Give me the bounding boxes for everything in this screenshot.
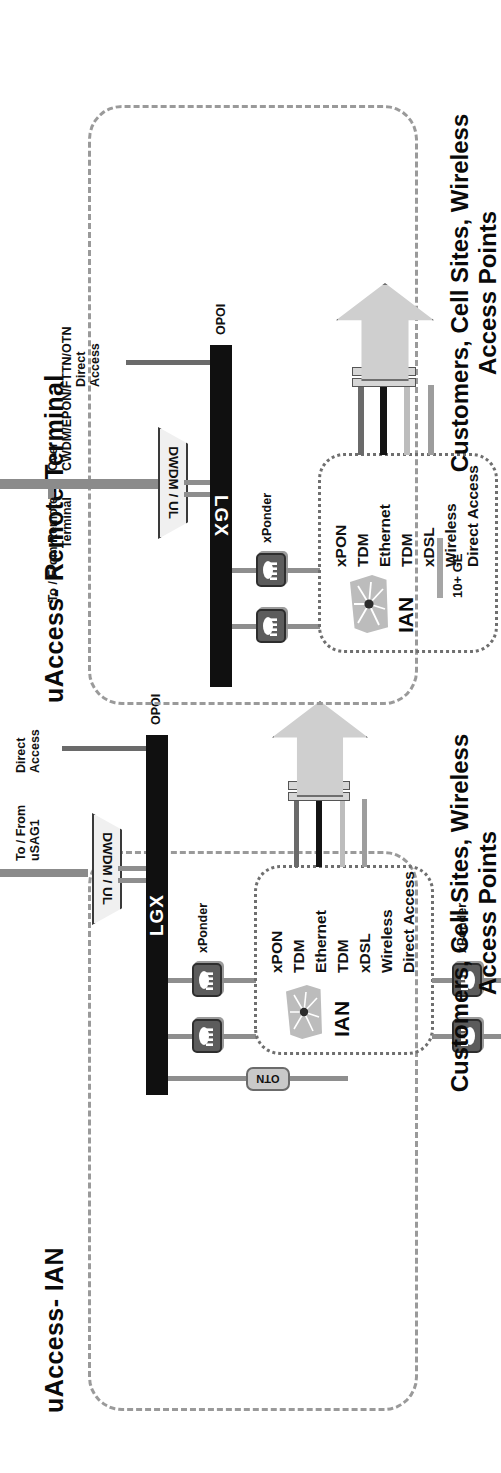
xponder-text-rt: xPonder (260, 493, 274, 543)
rt-trunk-label-line4: CWDM/EPON/FTTN/OTN (60, 327, 74, 471)
lgx-label-ian-top: LGX (146, 894, 168, 936)
xponder-fan-icon-1-ian (194, 1021, 220, 1051)
dwdm-lgx-wire-a-ian (118, 878, 146, 883)
ian-word-rt: IAN (394, 597, 418, 633)
service-drop-wire-2-rt (380, 385, 387, 455)
service-item: TDM (354, 533, 372, 567)
service-drop-wire-4-rt (428, 385, 434, 455)
xponder-text-ian-top: xPonder (196, 903, 210, 953)
usag1-uplink-line1: To / From (14, 805, 28, 861)
lgx-bar-rt: LGX (210, 345, 232, 687)
xponder-device-1-rt (256, 609, 286, 643)
customers-title-line1-rt: Customers, Cell Sites, Wireless (446, 114, 474, 473)
ian-word-ian: IAN (330, 1001, 354, 1037)
rt-trunk-label-right: Over CWDM/EPON/FTTN/OTN (46, 327, 74, 471)
rt-trunk-line (0, 479, 160, 489)
rt-trunk-label-line1: To / From Remote (46, 497, 60, 609)
otn-badge-ian: OTN (246, 1067, 290, 1091)
ian-node-icon-rt (350, 575, 388, 633)
customers-title-ian: Customers, Cell Sites, Wireless Access P… (446, 734, 501, 1093)
direct-access-label-ian: Direct Access (14, 729, 42, 773)
customers-arrow-ian (272, 701, 368, 797)
dwdm-ul-label-ian: DWDM / UL (100, 833, 115, 906)
xponder-device-1-ian (192, 1019, 222, 1053)
usag1-uplink-label: To / From uSAG1 (14, 805, 42, 861)
service-item: TDM (290, 939, 308, 973)
xponder-lgx-wire-2-ian (168, 978, 194, 983)
service-item: TDM (398, 533, 416, 567)
customers-title-line2-rt: Access Points (474, 114, 501, 473)
section-title-ian: uAccess- IAN (40, 1247, 69, 1413)
ian-node-icon-ian (286, 985, 322, 1039)
dwdm-lgx-wire-b-rt (184, 480, 212, 485)
lgx-xponder-wire-2-rt (232, 568, 258, 573)
service-drop-wire-3-ian (340, 799, 345, 867)
service-item: Direct Access (400, 871, 418, 973)
direct-access-label-rt: Direct Access (74, 343, 102, 387)
customers-title-line2-ian: Access Points (474, 734, 501, 1093)
xponder-lgx-wire-1-ian (168, 1034, 194, 1039)
usag1-uplink-line2: uSAG1 (28, 805, 42, 861)
xponder-ian-wire-1-ian (222, 1034, 256, 1039)
usag1-trunk-line (0, 869, 88, 877)
xponder-label-rt: xPonder (260, 493, 274, 543)
direct-access-line2-ian: Access (28, 729, 42, 773)
rt-trunk-label-line2: Terminal (60, 497, 74, 609)
rt-trunk-label-left: To / From Remote Terminal (46, 497, 74, 609)
service-item: xDSL (356, 933, 374, 973)
xponder-ian-wire-2-ian (222, 978, 256, 983)
service-item: TDM (334, 939, 352, 973)
service-item: xDSL (420, 527, 438, 567)
xponder-device-2-rt (256, 553, 286, 587)
service-item: Ethernet (376, 504, 394, 567)
rt-trunk-label-line3: Over (46, 327, 60, 471)
dwdm-lgx-wire-a-rt (184, 492, 212, 497)
service-drop-wire-1-rt (358, 385, 364, 455)
xponder-device-2-ian (192, 963, 222, 997)
direct-access-line2-rt: Access (88, 343, 102, 387)
xponder-fan-icon-2-rt (258, 555, 284, 585)
ian-starburst-icon-ian (286, 985, 322, 1039)
customers-title-line1-ian: Customers, Cell Sites, Wireless (446, 734, 474, 1093)
xponder-fan-icon-1-rt (258, 611, 284, 641)
dwdm-ul-label-rt: DWDM / UL (166, 447, 181, 520)
customers-title-rt: Customers, Cell Sites, Wireless Access P… (446, 114, 501, 473)
service-item: Wireless (442, 503, 460, 567)
direct-access-line1-rt: Direct (74, 343, 88, 387)
opoi-label-rt: OPOI (214, 304, 228, 335)
xponder-ian-wire-2-rt (286, 568, 320, 573)
direct-access-line1-ian: Direct (14, 729, 28, 773)
service-item: Ethernet (312, 910, 330, 973)
lgx-xponder-wire-1-rt (232, 624, 258, 629)
xponder-fan-icon-2-ian (194, 965, 220, 995)
direct-access-wire-ian (62, 746, 146, 751)
lgx-label-rt: LGX (210, 495, 232, 537)
opoi-text-rt: OPOI (214, 304, 228, 335)
xponder-label-ian-top: xPonder (196, 903, 210, 953)
service-drop-wire-1-ian (294, 799, 299, 867)
lgx-bar-ian-top: LGX (146, 735, 168, 1095)
diagram-canvas: uAccess- IAN To / From uSAG1 DWDM / UL D… (0, 0, 501, 1473)
service-item: xPON (268, 931, 286, 973)
service-drop-wire-4-ian (362, 799, 367, 867)
direct-access-wire-rt (126, 360, 212, 365)
xponder-ian-wire-1-rt (286, 624, 320, 629)
dwdm-lgx-wire-b-ian (118, 866, 146, 871)
service-item: xPON (332, 525, 350, 567)
service-item: Direct Access (464, 465, 482, 567)
service-drop-wire-3-rt (404, 385, 410, 455)
service-item: Wireless (378, 909, 396, 973)
ian-starburst-icon-rt (350, 575, 388, 633)
service-drop-wire-2-ian (316, 799, 322, 867)
otn-label-ian: OTN (256, 1073, 279, 1085)
